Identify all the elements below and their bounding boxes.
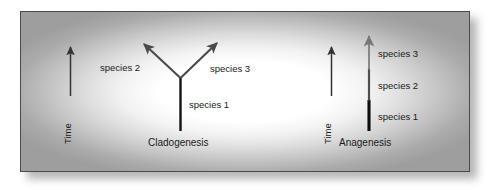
cladogenesis-label-species-2: species 2 xyxy=(100,62,140,73)
anagenesis-caption: Anagenesis xyxy=(339,137,391,148)
anagenesis-label-species-1: species 1 xyxy=(378,111,418,122)
cladogenesis-caption: Cladogenesis xyxy=(148,137,209,148)
anagenesis-label-species-3: species 3 xyxy=(378,48,418,59)
panel-background xyxy=(21,12,469,171)
cladogenesis-label-species-3: species 3 xyxy=(210,63,250,74)
time-axis-label-right: Time xyxy=(322,123,333,144)
figure-root: Time species 2 species 3 species 1 Clado… xyxy=(0,0,491,190)
time-axis-label-left: Time xyxy=(62,123,73,144)
illustration-panel xyxy=(20,11,470,172)
anagenesis-label-species-2: species 2 xyxy=(378,80,418,91)
cladogenesis-label-species-1: species 1 xyxy=(189,99,229,110)
